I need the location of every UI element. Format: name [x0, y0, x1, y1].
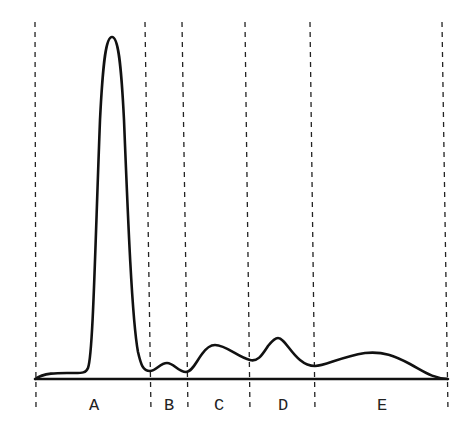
divider-line [145, 22, 151, 412]
density-trace [35, 37, 448, 379]
densitometry-chart: A B C D E [0, 0, 466, 429]
zone-label-b: B [164, 396, 174, 415]
divider-line [245, 22, 250, 412]
zone-label-c: C [214, 396, 224, 415]
zone-label-a: A [89, 396, 100, 415]
divider-line [442, 22, 448, 412]
zone-label-e: E [377, 396, 387, 415]
zone-label-d: D [278, 396, 288, 415]
divider-line [182, 22, 188, 412]
divider-line [35, 22, 36, 412]
zone-labels: A B C D E [89, 396, 387, 415]
divider-line [310, 22, 315, 412]
